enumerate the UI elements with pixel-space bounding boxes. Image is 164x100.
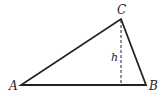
altitude-label-h: h <box>111 51 118 64</box>
triangle-diagram: A B C h <box>0 0 164 100</box>
vertex-label-a: A <box>8 79 18 93</box>
vertex-label-c: C <box>117 3 126 17</box>
triangle-abc <box>21 19 146 85</box>
vertex-label-b: B <box>148 79 158 93</box>
